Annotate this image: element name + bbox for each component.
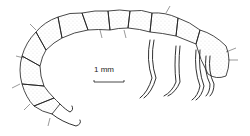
scale-bar-label: 1 mm — [94, 65, 114, 74]
larva-drawing — [0, 0, 250, 136]
scale-bar — [94, 80, 124, 82]
